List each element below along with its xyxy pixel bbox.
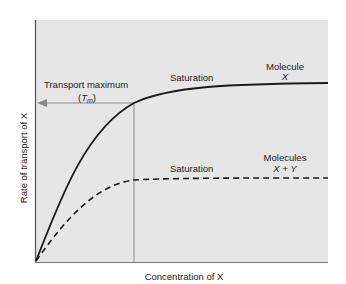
transport-rate-chart: Transport maximum (Tm) Saturation Satura… <box>0 0 346 284</box>
molecules-xy-label-line2: X + Y <box>272 163 297 174</box>
x-axis-label: Concentration of X <box>145 271 224 282</box>
plot-area <box>35 20 328 262</box>
y-axis-label: Rate of transport of X <box>18 112 29 203</box>
saturation-label-xy: Saturation <box>170 163 213 174</box>
molecules-xy-label-line1: Molecules <box>264 152 307 163</box>
saturation-label-x: Saturation <box>170 72 213 83</box>
molecule-x-label-line2: X <box>281 71 289 82</box>
tm-label: Transport maximum <box>44 79 128 90</box>
